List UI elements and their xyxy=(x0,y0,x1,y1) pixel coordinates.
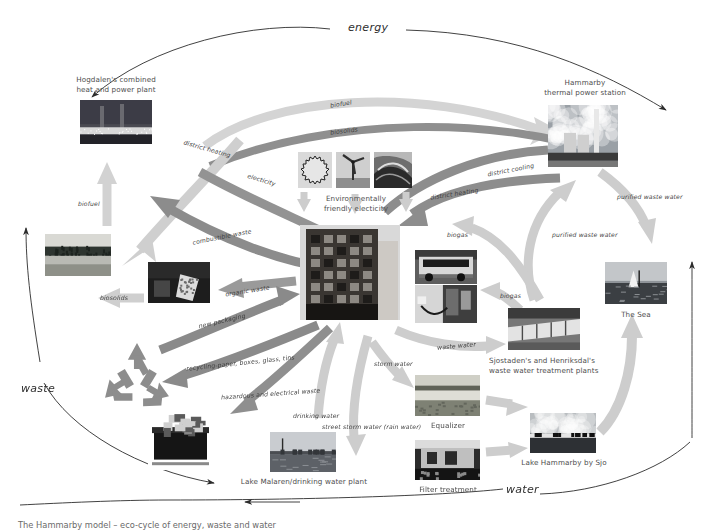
flow-label-biofuel-left: biofuel xyxy=(78,200,100,207)
photo-waste-bin xyxy=(148,405,213,470)
icon-wind-turbine xyxy=(336,152,370,188)
node-label-lake-malaren: Lake Malaren/drinking water plant xyxy=(240,477,368,487)
node-label-treatment-plants: Sjostaden's and Henriksdal's waste water… xyxy=(489,356,605,375)
photo-biogas-bus xyxy=(415,250,477,284)
photo-hogdalen-power-plant xyxy=(80,100,152,144)
photo-forest xyxy=(45,234,111,276)
photo-treatment-pipes xyxy=(508,308,580,350)
node-label-the-sea: The Sea xyxy=(600,310,672,320)
cycle-label-waste: waste xyxy=(21,382,55,395)
photo-apartment-building xyxy=(300,225,400,320)
photo-filter-treatment xyxy=(415,440,480,480)
arrow-equalizer-to-lake xyxy=(486,400,528,416)
photo-organic-compost xyxy=(148,262,210,303)
icon-hydro-water xyxy=(374,152,412,188)
diagram-canvas: Hogdalen's combined heat and power plant… xyxy=(0,0,725,531)
figure-caption: The Hammarby model – eco-cycle of energy… xyxy=(18,520,276,530)
arrow-biofuel-top xyxy=(205,102,560,146)
node-label-lake-hammarby: Lake Hammarby by Sjo xyxy=(510,458,618,468)
node-label-hammarby: Hammarby thermal power station xyxy=(525,78,645,97)
photo-equalizer xyxy=(415,375,480,416)
photo-lake-malaren xyxy=(270,432,336,472)
flow-label-drinking-water: drinking water xyxy=(293,412,339,419)
cycle-label-water: water xyxy=(506,483,539,496)
photo-fuel-pump xyxy=(415,285,477,323)
arrow-filter-to-lake xyxy=(486,442,528,458)
arrow-district-heating-1 xyxy=(122,140,240,266)
arrow-biofuel-left xyxy=(97,162,117,226)
flow-label-storm-water: storm water xyxy=(374,360,413,367)
flow-label-street-storm-water: street storm water (rain water) xyxy=(322,423,421,430)
flow-label-biogas-1: biogas xyxy=(447,231,468,238)
cycle-label-energy: energy xyxy=(348,21,388,34)
arrow-street-storm-water xyxy=(346,336,368,456)
flow-label-purified-water-1: purified waste water xyxy=(617,193,683,200)
photo-the-sea xyxy=(605,262,667,304)
arrow-lake-to-sea xyxy=(600,314,643,432)
photo-lake-hammarby xyxy=(530,413,596,453)
flow-label-biosolids-left: biosolids xyxy=(100,294,128,301)
node-label-hogdalen: Hogdalen's combined heat and power plant xyxy=(61,75,171,94)
node-label-green-electricity: Environmentally friendly electicity xyxy=(300,194,412,213)
icon-solar-sun xyxy=(298,152,332,188)
arrow-purified-waste-water-2 xyxy=(528,180,576,300)
photo-hammarby-thermal-station xyxy=(548,105,618,167)
flow-label-biogas-2: biogas xyxy=(500,292,521,299)
recycling-symbol-icon xyxy=(98,340,176,410)
node-label-filter-treatment: Filter treatment xyxy=(404,485,492,495)
node-label-equalizer: Equalizer xyxy=(410,421,486,431)
flow-label-purified-water-2: purified waste water xyxy=(552,231,618,238)
